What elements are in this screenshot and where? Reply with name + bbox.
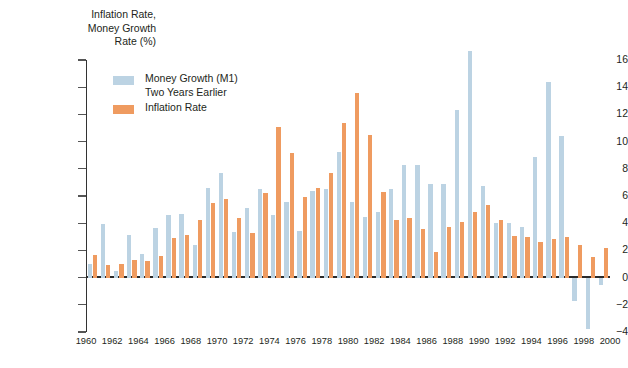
bar-inflation-1984 bbox=[407, 218, 411, 277]
bar-money-growth-1992 bbox=[507, 223, 511, 277]
y-tick-mark bbox=[78, 168, 86, 169]
bar-money-growth-1986 bbox=[428, 184, 432, 278]
bar-money-growth-1967 bbox=[179, 214, 183, 278]
bar-inflation-1992 bbox=[512, 236, 516, 277]
bar-inflation-1988 bbox=[460, 222, 464, 278]
bar-money-growth-1987 bbox=[441, 184, 445, 278]
bar-money-growth-1984 bbox=[402, 165, 406, 278]
bar-inflation-1961 bbox=[106, 265, 110, 278]
bar-money-growth-1994 bbox=[533, 157, 537, 277]
bar-money-growth-1964 bbox=[140, 254, 144, 278]
legend-label-money-growth-line-1: Money Growth (M1) bbox=[145, 72, 238, 86]
bar-money-growth-1983 bbox=[389, 189, 393, 278]
bar-money-growth-1961 bbox=[101, 224, 105, 278]
bar-inflation-1976 bbox=[303, 197, 307, 277]
bar-money-growth-1982 bbox=[376, 212, 380, 278]
y-tick-mark bbox=[78, 195, 86, 196]
bar-inflation-1996 bbox=[565, 237, 569, 277]
bar-inflation-1974 bbox=[276, 127, 280, 277]
bar-money-growth-1972 bbox=[245, 208, 249, 278]
legend-label-money-growth-line-2: Two Years Earlier bbox=[145, 86, 227, 100]
bar-inflation-1998 bbox=[591, 257, 595, 278]
bar-inflation-1966 bbox=[172, 238, 176, 277]
bar-inflation-1962 bbox=[119, 264, 123, 278]
bar-money-growth-1988 bbox=[455, 110, 459, 277]
legend-swatch-money-growth-icon bbox=[113, 76, 134, 85]
bar-money-growth-1968 bbox=[193, 245, 197, 278]
bar-money-growth-1998 bbox=[586, 278, 590, 330]
bar-inflation-1973 bbox=[263, 193, 267, 278]
bar-inflation-1987 bbox=[447, 227, 451, 277]
bar-inflation-1979 bbox=[342, 123, 346, 278]
bar-inflation-1975 bbox=[290, 153, 294, 277]
x-tick-label: 2000 bbox=[595, 336, 625, 346]
bar-inflation-1985 bbox=[421, 229, 425, 277]
bar-money-growth-1989 bbox=[468, 51, 472, 277]
y-tick-mark bbox=[78, 59, 86, 60]
bar-inflation-1981 bbox=[368, 135, 372, 277]
bar-inflation-1970 bbox=[224, 199, 228, 277]
y-axis-title-line-3: Rate (%) bbox=[8, 35, 156, 49]
bar-inflation-1963 bbox=[132, 260, 136, 278]
bar-money-growth-1981 bbox=[363, 217, 367, 278]
bar-money-growth-1999 bbox=[599, 278, 603, 285]
bar-inflation-1999 bbox=[604, 248, 608, 278]
bar-money-growth-1971 bbox=[232, 232, 236, 278]
bar-money-growth-1973 bbox=[258, 189, 262, 278]
bar-inflation-1991 bbox=[499, 220, 503, 278]
bar-inflation-1960 bbox=[93, 255, 97, 277]
bar-inflation-1971 bbox=[237, 218, 241, 278]
bar-inflation-1965 bbox=[159, 256, 163, 278]
y-axis-title-line-2: Money Growth bbox=[8, 22, 156, 36]
y-tick-mark bbox=[78, 141, 86, 142]
y-tick-mark bbox=[78, 87, 86, 88]
bar-inflation-1972 bbox=[250, 233, 254, 277]
bar-money-growth-1963 bbox=[127, 235, 131, 277]
bar-inflation-1997 bbox=[578, 245, 582, 278]
bar-money-growth-1966 bbox=[166, 215, 170, 278]
bar-inflation-1977 bbox=[316, 188, 320, 278]
bar-inflation-1994 bbox=[538, 242, 542, 277]
y-tick-mark bbox=[78, 331, 86, 332]
y-tick-mark bbox=[78, 304, 86, 305]
bar-money-growth-1969 bbox=[206, 188, 210, 278]
bar-inflation-1969 bbox=[211, 203, 215, 278]
bar-inflation-1983 bbox=[394, 220, 398, 277]
bar-money-growth-1996 bbox=[559, 136, 563, 277]
y-axis-title-line-1: Inflation Rate, bbox=[8, 8, 156, 22]
bar-inflation-1995 bbox=[552, 239, 556, 278]
bar-money-growth-1976 bbox=[297, 231, 301, 278]
bar-inflation-1964 bbox=[145, 261, 149, 278]
bar-money-growth-1977 bbox=[310, 191, 314, 277]
y-axis-title: Inflation Rate, Money Growth Rate (%) bbox=[8, 8, 156, 49]
bar-money-growth-1962 bbox=[114, 271, 118, 278]
bar-money-growth-1985 bbox=[415, 165, 419, 278]
bar-inflation-1986 bbox=[434, 252, 438, 277]
bar-money-growth-1975 bbox=[284, 202, 288, 277]
bar-money-growth-1991 bbox=[494, 223, 498, 278]
bar-money-growth-1970 bbox=[219, 173, 223, 278]
bar-money-growth-1990 bbox=[481, 186, 485, 278]
bar-money-growth-1980 bbox=[350, 202, 354, 277]
bar-inflation-1978 bbox=[329, 173, 333, 278]
bar-money-growth-1978 bbox=[324, 189, 328, 277]
bar-money-growth-1997 bbox=[572, 278, 576, 301]
y-tick-mark bbox=[78, 114, 86, 115]
y-tick-mark bbox=[78, 277, 86, 278]
bar-inflation-1989 bbox=[473, 212, 477, 278]
bar-money-growth-1960 bbox=[88, 264, 92, 278]
bar-money-growth-1979 bbox=[337, 152, 341, 278]
inflation-money-growth-chart: Inflation Rate, Money Growth Rate (%) −4… bbox=[0, 0, 628, 368]
bar-inflation-1967 bbox=[185, 235, 189, 277]
bar-inflation-1982 bbox=[381, 192, 385, 278]
bar-inflation-1968 bbox=[198, 220, 202, 277]
y-tick-mark bbox=[78, 223, 86, 224]
y-tick-mark bbox=[78, 250, 86, 251]
bar-inflation-1990 bbox=[486, 205, 490, 278]
legend-swatch-inflation-icon bbox=[113, 105, 134, 114]
bar-money-growth-1974 bbox=[271, 215, 275, 278]
legend-label-inflation: Inflation Rate bbox=[145, 101, 207, 115]
bar-money-growth-1995 bbox=[546, 82, 550, 277]
bar-money-growth-1965 bbox=[153, 228, 157, 278]
bar-inflation-1980 bbox=[355, 93, 359, 278]
